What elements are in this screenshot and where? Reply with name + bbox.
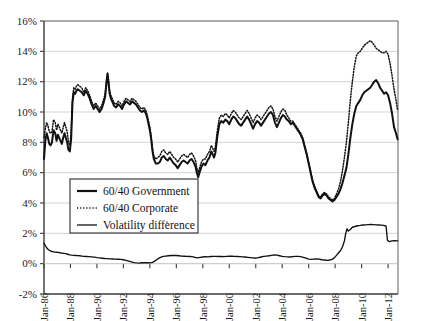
y-tick-label: 4% — [22, 197, 37, 209]
chart-canvas: 16%14%12%10%8%6%4%2%0%-2% Jan-86Jan-88Ja… — [0, 0, 424, 321]
volatility-chart: 16%14%12%10%8%6%4%2%0%-2% Jan-86Jan-88Ja… — [0, 0, 424, 321]
legend-label: 60/40 Corporate — [103, 202, 178, 215]
x-tick-label: Jan-98 — [198, 293, 209, 321]
y-tick-label: 0% — [22, 257, 37, 269]
y-tick-label: -2% — [19, 288, 37, 300]
y-tick-label: 16% — [17, 15, 37, 27]
x-tick-label: Jan-10 — [357, 293, 368, 321]
y-tick-label: 12% — [17, 75, 37, 87]
legend-label: 60/40 Government — [103, 185, 190, 197]
x-tick-label: Jan-08 — [330, 293, 341, 321]
x-tick-label: Jan-06 — [304, 293, 315, 321]
x-tick-label: Jan-12 — [383, 293, 394, 321]
x-tick-label: Jan-96 — [171, 293, 182, 321]
legend-label: Volatility difference — [103, 219, 195, 232]
x-tick-label: Jan-02 — [251, 293, 262, 321]
y-tick-label: 2% — [22, 227, 37, 239]
y-tick-label: 14% — [17, 45, 37, 57]
x-tick-label: Jan-90 — [92, 293, 103, 321]
chart-background — [0, 0, 424, 321]
x-tick-label: Jan-00 — [224, 293, 235, 321]
x-tick-label: Jan-92 — [118, 293, 129, 321]
y-tick-label: 8% — [22, 136, 37, 148]
y-tick-label: 10% — [17, 106, 37, 118]
chart-legend: 60/40 Government60/40 CorporateVolatilit… — [70, 179, 198, 233]
x-tick-label: Jan-04 — [277, 292, 288, 321]
x-tick-label: Jan-88 — [65, 293, 76, 321]
y-tick-label: 6% — [22, 166, 37, 178]
x-tick-label: Jan-86 — [39, 293, 50, 321]
print-speck — [166, 221, 168, 223]
x-tick-label: Jan-94 — [145, 292, 156, 321]
